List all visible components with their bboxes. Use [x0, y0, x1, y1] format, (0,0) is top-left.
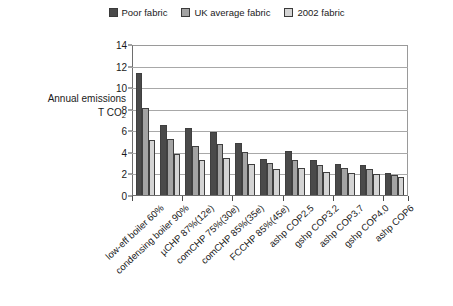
- y-axis-title-line2: T CO2: [14, 106, 126, 120]
- square-swatch-icon: [109, 8, 118, 17]
- bar: [292, 160, 299, 195]
- bar-group: [382, 46, 407, 195]
- bar: [185, 128, 192, 195]
- bar: [341, 168, 348, 195]
- bar: [136, 73, 143, 195]
- chart-legend: Poor fabric UK average fabric 2002 fabri…: [0, 8, 453, 18]
- square-swatch-icon: [181, 8, 190, 17]
- y-axis-tick-mark: [128, 66, 132, 67]
- bar-group: [307, 46, 332, 195]
- y-axis-tick-mark: [128, 88, 132, 89]
- bar: [174, 154, 181, 196]
- y-axis-title-line1: Annual emissions: [48, 93, 126, 104]
- legend-entry: UK average fabric: [181, 8, 270, 18]
- bar: [167, 139, 174, 195]
- bar: [235, 143, 242, 195]
- bar-group: [158, 46, 183, 195]
- y-axis-tick-mark: [128, 131, 132, 132]
- legend-label: Poor fabric: [122, 8, 168, 18]
- bar: [385, 173, 392, 195]
- bar: [242, 152, 249, 195]
- y-axis-title: Annual emissions T CO2: [14, 92, 126, 119]
- legend-entry: 2002 fabric: [284, 8, 344, 18]
- bar: [360, 165, 367, 195]
- bar-group: [282, 46, 307, 195]
- bar-group: [357, 46, 382, 195]
- bar: [298, 168, 305, 195]
- y-axis-tick-mark: [128, 174, 132, 175]
- y-axis-tick-mark: [128, 45, 132, 46]
- legend-label: 2002 fabric: [297, 8, 344, 18]
- bar: [267, 163, 274, 195]
- bar-group: [133, 46, 158, 195]
- x-axis-labels: low-eff boiler 60%condensing boiler 90%µ…: [132, 201, 432, 301]
- bar: [210, 132, 217, 195]
- plot-wrapper: 02468101214: [132, 45, 408, 196]
- legend-entry: Poor fabric: [109, 8, 168, 18]
- bar-series-container: [133, 46, 407, 195]
- bar: [285, 151, 292, 195]
- bar: [248, 164, 255, 195]
- legend-label: UK average fabric: [194, 8, 270, 18]
- bar-group: [332, 46, 357, 195]
- square-swatch-icon: [284, 8, 293, 17]
- bar: [310, 160, 317, 195]
- y-axis-tick-mark: [128, 152, 132, 153]
- bar: [323, 172, 330, 195]
- bar: [192, 146, 199, 195]
- bar: [142, 108, 149, 195]
- bar: [199, 160, 206, 195]
- bar: [391, 175, 398, 195]
- bar: [398, 177, 405, 195]
- bar: [217, 144, 224, 195]
- bar: [260, 159, 267, 195]
- bar: [348, 173, 355, 195]
- y-axis-tick-mark: [128, 109, 132, 110]
- bar: [149, 140, 156, 195]
- bar: [366, 169, 373, 195]
- bar-group: [208, 46, 233, 195]
- bar-group: [258, 46, 283, 195]
- bar: [160, 125, 167, 195]
- bar-group: [233, 46, 258, 195]
- bar: [335, 164, 342, 195]
- bar: [273, 169, 280, 195]
- bar: [223, 158, 230, 195]
- bar-group: [183, 46, 208, 195]
- bar: [317, 165, 324, 195]
- bar-chart-figure: Poor fabric UK average fabric 2002 fabri…: [0, 0, 453, 306]
- bar: [373, 174, 380, 195]
